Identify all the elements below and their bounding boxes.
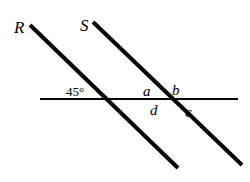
- angle-label-d: d: [150, 103, 158, 118]
- line-label-s: S: [80, 17, 89, 34]
- line-label-r: R: [14, 19, 24, 36]
- transversal-line-s: [93, 22, 242, 165]
- angle-label-b: b: [172, 83, 180, 98]
- diagram-canvas: [0, 0, 250, 182]
- angle-label-c: c: [185, 105, 192, 120]
- angle-label-a: a: [143, 84, 151, 99]
- angle-label-45-degrees: 45°: [66, 85, 84, 98]
- geometry-diagram: R S 45° a b d c: [0, 0, 250, 182]
- transversal-line-r: [30, 25, 178, 168]
